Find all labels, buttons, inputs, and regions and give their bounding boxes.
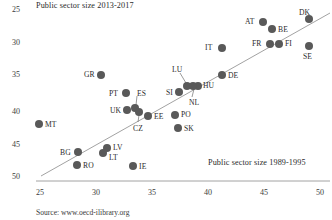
x-axis-tick-40: 40 — [198, 188, 218, 197]
y-axis-tick-25: 25 — [4, 5, 20, 14]
data-point-ro — [73, 161, 81, 169]
point-label-es: ES — [137, 89, 146, 98]
point-label-it: IT — [205, 43, 212, 52]
point-label-fr: FR — [252, 39, 262, 48]
y-axis-tick-45: 45 — [4, 140, 20, 149]
y-axis-tick-50: 50 — [4, 172, 20, 181]
point-label-nl: NL — [189, 98, 199, 107]
data-point-at — [259, 18, 267, 26]
x-axis-tick-50: 50 — [310, 188, 330, 197]
point-label-lv: LV — [113, 143, 123, 152]
point-label-mt: MT — [45, 120, 57, 129]
point-label-dk: DK — [299, 8, 310, 17]
series-title-label: Public sector size 2013-2017 — [36, 1, 134, 10]
point-label-fi: FI — [285, 39, 292, 48]
data-point-it — [218, 44, 226, 52]
point-label-ie: IE — [139, 162, 146, 171]
point-label-cz: CZ — [133, 124, 143, 133]
data-point-cz — [135, 108, 143, 116]
point-label-gr: GR — [84, 70, 95, 79]
point-label-lu: LU — [172, 65, 182, 74]
x-axis-tick-45: 45 — [254, 188, 274, 197]
point-label-po: PO — [181, 110, 191, 119]
point-label-se: SE — [303, 52, 312, 61]
x-axis-title-label: Public sector size 1989-1995 — [208, 158, 306, 167]
point-label-de: DE — [228, 71, 238, 80]
point-label-pt: PT — [109, 89, 118, 98]
data-point-gr — [97, 71, 105, 79]
y-axis-tick-35: 35 — [4, 70, 20, 79]
point-label-hu: HU — [203, 81, 214, 90]
scatter-chart: DKATBEITFRFISEGRDELUHUNLSIPTESUKCZEEPOSK… — [0, 0, 332, 220]
x-axis-tick-30: 30 — [86, 188, 106, 197]
x-axis-tick-25: 25 — [30, 188, 50, 197]
point-label-bg: BG — [60, 148, 71, 157]
point-label-ro: RO — [83, 161, 94, 170]
data-point-si — [175, 88, 183, 96]
point-label-lt: LT — [109, 153, 118, 162]
trend-line — [41, 13, 330, 176]
data-point-po — [171, 111, 179, 119]
point-label-uk: UK — [110, 106, 121, 115]
data-point-fi — [275, 40, 283, 48]
point-label-sk: SK — [184, 124, 194, 133]
point-label-at: AT — [245, 17, 254, 26]
point-label-be: BE — [278, 25, 288, 34]
y-axis-tick-30: 30 — [4, 38, 20, 47]
source-note: Source: www.oecd-ilibrary.org — [36, 208, 130, 217]
data-point-mt — [35, 120, 43, 128]
plot-area: DKATBEITFRFISEGRDELUHUNLSIPTESUKCZEEPOSK… — [0, 0, 332, 220]
point-label-si: SI — [166, 88, 173, 97]
data-point-uk — [123, 106, 131, 114]
data-point-nl — [189, 82, 197, 90]
data-point-ie — [129, 162, 137, 170]
data-point-ee — [144, 112, 152, 120]
data-point-sk — [174, 124, 182, 132]
data-point-fr — [266, 40, 274, 48]
data-point-be — [268, 25, 276, 33]
point-label-ee: EE — [154, 112, 163, 121]
data-point-de — [218, 71, 226, 79]
data-point-pt — [122, 89, 130, 97]
data-point-lt — [99, 149, 107, 157]
x-axis-tick-35: 35 — [142, 188, 162, 197]
data-point-bg — [74, 148, 82, 156]
y-axis-tick-40: 40 — [4, 107, 20, 116]
data-point-se — [305, 42, 313, 50]
